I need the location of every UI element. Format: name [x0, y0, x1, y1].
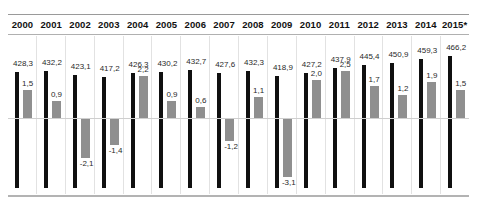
growth-bar [52, 101, 61, 118]
total-bar [217, 73, 221, 188]
total-value-label: 417,2 [100, 64, 120, 73]
growth-value-label: 1,7 [369, 75, 380, 84]
chart-column: 432,31,1 [239, 36, 268, 194]
total-value-label: 445,4 [360, 52, 380, 61]
year-header-2001: 2001 [37, 16, 66, 33]
growth-bar [110, 118, 119, 145]
top-divider [8, 14, 469, 15]
growth-value-label: -1,2 [224, 142, 238, 151]
year-header-2003: 2003 [94, 16, 123, 33]
total-value-label: 432,3 [244, 58, 264, 67]
total-bar [131, 73, 135, 188]
chart-column: 430,20,9 [152, 36, 181, 194]
total-value-label: 428,3 [13, 59, 33, 68]
growth-value-label: -1,4 [109, 146, 123, 155]
chart-column: 437,92,5 [326, 36, 355, 194]
growth-bar [456, 90, 465, 119]
year-header-2014: 2014 [411, 16, 440, 33]
total-value-label: 450,9 [388, 50, 408, 59]
growth-value-label: -2,1 [80, 159, 94, 168]
total-bar [246, 71, 250, 188]
growth-bar [370, 86, 379, 118]
total-bar [15, 72, 19, 188]
growth-bar [23, 90, 32, 119]
growth-value-label: -3,1 [282, 178, 296, 187]
zero-baseline [8, 118, 469, 119]
chart-column: 432,20,9 [37, 36, 66, 194]
year-header-2012: 2012 [354, 16, 383, 33]
growth-bar [81, 118, 90, 158]
total-bar [159, 72, 163, 188]
growth-bar [283, 118, 292, 177]
total-bar [333, 68, 337, 188]
chart-column: 432,70,6 [181, 36, 210, 194]
total-bar [362, 65, 366, 188]
header-divider [8, 34, 469, 35]
chart-column: 445,41,7 [355, 36, 384, 194]
total-value-label: 432,2 [42, 58, 62, 67]
chart-root: 2000200120022003200420052006200720082009… [0, 0, 477, 206]
chart-column: 450,91,2 [383, 36, 412, 194]
total-bar [188, 70, 192, 188]
year-header-2009: 2009 [267, 16, 296, 33]
growth-value-label: 2,2 [138, 65, 149, 74]
total-value-label: 418,9 [273, 63, 293, 72]
year-header-2015star: 2015* [440, 16, 469, 33]
growth-bar [139, 76, 148, 118]
year-header-2010: 2010 [296, 16, 325, 33]
year-header-2006: 2006 [181, 16, 210, 33]
chart-column: 417,2-1,4 [95, 36, 124, 194]
growth-bar [341, 71, 350, 119]
chart-column: 428,31,5 [8, 36, 37, 194]
growth-value-label: 1,5 [22, 79, 33, 88]
growth-value-label: 1,5 [455, 79, 466, 88]
growth-value-label: 1,2 [397, 84, 408, 93]
total-bar [304, 73, 308, 188]
total-bar [102, 77, 106, 188]
total-value-label: 427,2 [302, 60, 322, 69]
chart-column: 423,1-2,1 [66, 36, 95, 194]
growth-value-label: 0,6 [195, 96, 206, 105]
bottom-divider [8, 195, 469, 197]
total-value-label: 430,2 [157, 59, 177, 68]
chart-column: 427,22,0 [297, 36, 326, 194]
growth-bar [225, 118, 234, 141]
growth-value-label: 2,5 [340, 60, 351, 69]
growth-value-label: 1,1 [253, 86, 264, 95]
growth-value-label: 0,9 [166, 90, 177, 99]
total-value-label: 427,6 [215, 60, 235, 69]
growth-value-label: 0,9 [51, 90, 62, 99]
chart-column: 459,31,9 [412, 36, 441, 194]
chart-column: 427,6-1,2 [210, 36, 239, 194]
total-value-label: 466,2 [446, 43, 466, 52]
chart-column: 466,21,5 [441, 36, 469, 194]
total-bar [390, 63, 394, 188]
growth-bar [167, 101, 176, 118]
year-header-2008: 2008 [239, 16, 268, 33]
year-header-2013: 2013 [383, 16, 412, 33]
total-bar [419, 59, 423, 188]
year-header-2000: 2000 [8, 16, 37, 33]
year-header-row: 2000200120022003200420052006200720082009… [8, 16, 469, 33]
growth-bar [398, 95, 407, 118]
growth-value-label: 1,9 [426, 71, 437, 80]
chart-column: 418,9-3,1 [268, 36, 297, 194]
total-bar [73, 75, 77, 189]
total-bar [448, 56, 452, 188]
year-header-2005: 2005 [152, 16, 181, 33]
growth-bar [196, 107, 205, 118]
total-bar [44, 71, 48, 188]
total-value-label: 432,7 [186, 57, 206, 66]
growth-bar [427, 82, 436, 118]
total-value-label: 423,1 [71, 62, 91, 71]
growth-bar [312, 80, 321, 118]
year-header-2011: 2011 [325, 16, 354, 33]
chart-column: 426,32,2 [124, 36, 153, 194]
total-value-label: 459,3 [417, 46, 437, 55]
growth-bar [254, 97, 263, 118]
year-header-2002: 2002 [66, 16, 95, 33]
year-header-2004: 2004 [123, 16, 152, 33]
total-bar [275, 76, 279, 188]
growth-value-label: 2,0 [311, 69, 322, 78]
plot-area: 428,31,5432,20,9423,1-2,1417,2-1,4426,32… [8, 36, 469, 194]
